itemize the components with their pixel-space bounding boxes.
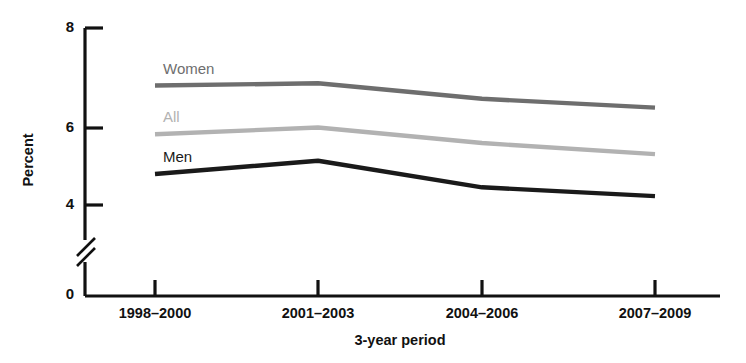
- x-tick-label-2007-2009: 2007–2009: [619, 305, 692, 321]
- series-label-men: Men: [163, 148, 192, 165]
- x-tick-label-2004-2006: 2004–2006: [446, 305, 519, 321]
- y-tick-label-0: 0: [66, 285, 74, 302]
- y-tick-label-6: 6: [66, 118, 74, 135]
- axis-break-slash-upper: [77, 238, 95, 256]
- line-chart: 8 6 4 0 Percent 1998–2000 2001–2003 2004…: [0, 0, 746, 363]
- y-tick-label-8: 8: [66, 18, 74, 35]
- chart-container: 8 6 4 0 Percent 1998–2000 2001–2003 2004…: [0, 0, 746, 363]
- series-line-men: [155, 161, 655, 196]
- series-label-women: Women: [163, 60, 214, 77]
- y-tick-label-4: 4: [66, 195, 75, 212]
- x-tick-label-1998-2000: 1998–2000: [119, 305, 192, 321]
- series-line-all: [155, 128, 655, 155]
- series-label-all: All: [163, 108, 180, 125]
- x-axis-title: 3-year period: [354, 332, 445, 348]
- series-line-women: [155, 83, 655, 107]
- x-tick-label-2001-2003: 2001–2003: [282, 305, 355, 321]
- y-axis-title: Percent: [20, 133, 36, 186]
